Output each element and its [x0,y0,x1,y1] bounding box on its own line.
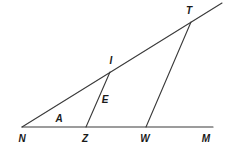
vertex-label-M: M [202,134,210,144]
geometry-diagram: N Z W M I T A E [0,0,228,150]
angle-label-A: A [55,114,62,124]
vertex-label-W: W [140,134,149,144]
vertex-label-N: N [18,134,25,144]
ray-N-through-T [22,3,222,127]
vertex-label-T: T [186,6,192,16]
angle-label-E: E [102,95,109,105]
segment-W-to-T [146,22,191,127]
vertex-label-I: I [110,56,113,66]
vertex-label-Z: Z [82,134,88,144]
geometry-canvas [0,0,228,150]
